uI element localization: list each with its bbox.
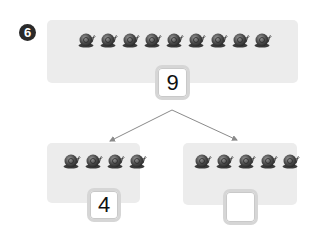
snail-icon	[260, 153, 278, 169]
snail-icon	[216, 153, 234, 169]
snail-icon	[238, 153, 256, 169]
snail-icon	[85, 153, 103, 169]
part-left-number-box: 4	[87, 188, 121, 222]
part-right-snail-row	[194, 153, 300, 169]
snail-icon	[107, 153, 125, 169]
snail-icon	[282, 153, 300, 169]
snail-icon	[129, 153, 147, 169]
snail-icon	[63, 153, 81, 169]
part-left-snail-row	[63, 153, 147, 169]
snail-icon	[194, 153, 212, 169]
part-right-answer-box[interactable]	[223, 189, 258, 225]
